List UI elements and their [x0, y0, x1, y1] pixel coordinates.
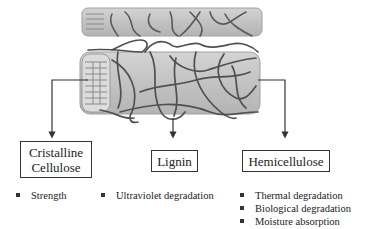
cellulose-label-line2: Cellulose: [29, 160, 83, 175]
hemicellulose-label: Hemicellulose: [248, 154, 323, 169]
list-item: Moisture absorption: [239, 215, 351, 228]
property-text: Moisture absorption: [255, 216, 340, 227]
property-text: Strength: [31, 190, 67, 201]
cellulose-label-line1: Cristalline: [29, 145, 83, 160]
cellulose-label-box: Cristalline Cellulose: [20, 141, 92, 178]
bullet-icon: [16, 193, 20, 197]
property-text: Thermal degradation: [255, 190, 343, 201]
cellulose-end-cap: [82, 54, 110, 112]
list-item: Ultraviolet degradation: [100, 189, 214, 202]
list-item: Thermal degradation: [239, 189, 351, 202]
bullet-icon: [240, 219, 244, 223]
top-microfibril: [82, 8, 262, 36]
bottom-microfibril: [80, 40, 260, 122]
lignin-label: Lignin: [157, 154, 192, 169]
cellulose-properties-list: Strength: [15, 189, 67, 202]
list-item: Biological degradation: [239, 202, 351, 215]
bullet-icon: [101, 193, 105, 197]
lignin-properties-list: Ultraviolet degradation: [100, 189, 214, 202]
property-text: Ultraviolet degradation: [116, 190, 214, 201]
hemicellulose-connector: [258, 80, 285, 135]
list-item: Strength: [15, 189, 67, 202]
bullet-icon: [240, 206, 244, 210]
hemicellulose-label-box: Hemicellulose: [242, 150, 330, 172]
hemicellulose-properties-list: Thermal degradation Biological degradati…: [239, 189, 351, 228]
bullet-icon: [240, 193, 244, 197]
lignin-label-box: Lignin: [151, 150, 198, 172]
property-text: Biological degradation: [255, 203, 351, 214]
